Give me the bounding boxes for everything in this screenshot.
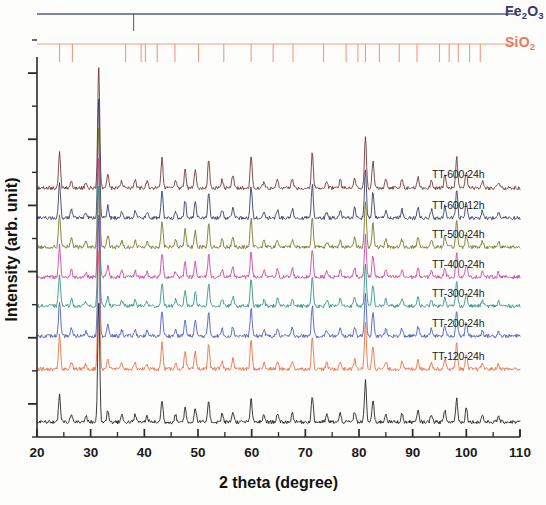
series-label-tt-500-24h: TT-500-24h — [432, 228, 484, 240]
xtick-label-70: 70 — [298, 445, 313, 460]
xtick-label-100: 100 — [455, 445, 478, 460]
legend-fe2o3-text: Fe — [505, 3, 522, 19]
xrd-plot-canvas: 20304050607080901001102 theta (degree)In… — [0, 0, 546, 505]
legend-label-fe2o3: Fe2O3 — [505, 3, 544, 19]
series-label-tt-600-12h: TT-600-12h — [432, 199, 484, 211]
y-axis-title: Intensity (arb. unit) — [3, 178, 20, 322]
xtick-label-40: 40 — [137, 445, 152, 460]
reference-pattern-layer — [37, 14, 517, 62]
series-label-tt-300-24h: TT-300-24h — [432, 287, 484, 299]
legend-label-sio2: SiO2 — [505, 34, 535, 50]
xrd-figure: 20304050607080901001102 theta (degree)In… — [0, 0, 546, 505]
reference-pattern-sio2 — [37, 44, 517, 62]
series-label-tt-200-24h: TT-200-24h — [432, 317, 484, 329]
legend-sio2-text: Si — [505, 34, 519, 50]
legend-fe2o3-sub2: 3 — [538, 10, 543, 21]
diffraction-series-layer — [37, 68, 520, 424]
series-label-tt-400-24h: TT-400-24h — [432, 258, 484, 270]
legend-sio2-mid: O — [519, 34, 530, 50]
legend-fe2o3-sub1: 2 — [522, 10, 527, 21]
series-label-tt-600-24h: TT-600-24h — [432, 168, 484, 180]
xtick-label-30: 30 — [83, 445, 98, 460]
legend-sio2-sub2: 2 — [530, 41, 535, 52]
xtick-label-110: 110 — [509, 445, 531, 460]
xtick-label-60: 60 — [244, 445, 259, 460]
legend-fe2o3-mid: O — [527, 3, 538, 19]
xtick-label-90: 90 — [405, 445, 420, 460]
xtick-label-20: 20 — [29, 445, 44, 460]
series-label-tt-120-24h: TT-120-24h — [432, 350, 484, 362]
xtick-label-80: 80 — [351, 445, 366, 460]
xtick-label-50: 50 — [190, 445, 205, 460]
reference-pattern-fe2o3 — [37, 14, 517, 31]
x-axis-title: 2 theta (degree) — [219, 474, 338, 491]
